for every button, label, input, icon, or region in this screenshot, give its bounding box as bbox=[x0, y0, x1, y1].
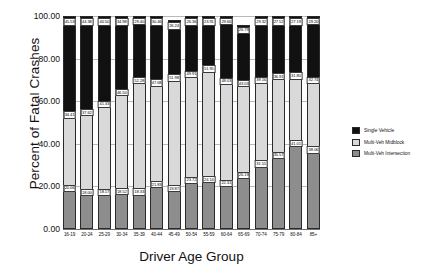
bar-column[interactable]: 34.9846.5018.52 bbox=[115, 16, 128, 229]
bar-column[interactable]: 29.2032.7438.06 bbox=[307, 16, 320, 229]
bar-segment[interactable]: 41.01 bbox=[289, 142, 302, 229]
legend-item[interactable]: Multi-Veh Intersection bbox=[352, 149, 410, 158]
x-axis-tick-label: 80-84 bbox=[289, 232, 302, 237]
bar-segment[interactable]: 23.91 bbox=[202, 16, 215, 67]
bar-segment[interactable]: 37.62 bbox=[80, 111, 93, 191]
bar-value-label: 49.91 bbox=[185, 71, 198, 78]
y-axis-tick-label: 80.00 bbox=[38, 54, 60, 64]
bar-segment[interactable]: 26.19 bbox=[237, 173, 250, 229]
bar-value-label: 39.16 bbox=[255, 77, 268, 84]
x-axis-tick-labels: 16-1920-2425-2930-3435-3940-4445-4950-54… bbox=[63, 232, 320, 237]
legend-item-label: Multi-Veh Midblock bbox=[364, 140, 404, 145]
bar-column[interactable]: 26.7943.0326.19 bbox=[237, 16, 250, 229]
bar-segment[interactable]: 20.06 bbox=[63, 186, 76, 229]
x-axis-tick-label: 35-39 bbox=[133, 232, 146, 237]
bar-segment[interactable]: 19.87 bbox=[168, 187, 181, 229]
bar-column[interactable]: 27.1931.8041.01 bbox=[289, 16, 302, 229]
bar-value-label: 31.80 bbox=[290, 72, 303, 79]
bar-segment[interactable]: 27.52 bbox=[272, 16, 285, 75]
bar-segment[interactable]: 31.80 bbox=[289, 74, 302, 142]
bar-value-label: 23.72 bbox=[185, 177, 198, 184]
bar-segment[interactable]: 29.40 bbox=[133, 16, 146, 79]
bar-segment[interactable]: 47.68 bbox=[150, 81, 163, 183]
bar-column[interactable]: 29.3239.1631.51 bbox=[255, 16, 268, 229]
x-axis-tick-label: 20-24 bbox=[80, 232, 93, 237]
bar-column[interactable]: 29.4052.2818.33 bbox=[133, 16, 146, 229]
bar-segment[interactable]: 34.41 bbox=[63, 113, 76, 186]
bar-segment[interactable]: 18.00 bbox=[80, 191, 93, 229]
legend-item[interactable]: Single Vehicle bbox=[352, 126, 410, 135]
bar-value-label: 48.03 bbox=[220, 78, 233, 85]
bar-segment[interactable]: 51.98 bbox=[168, 76, 181, 187]
bar-segment[interactable]: 27.19 bbox=[289, 16, 302, 74]
bar-segment[interactable]: 39.16 bbox=[255, 78, 268, 161]
x-axis-tick-label: 16-19 bbox=[63, 232, 76, 237]
bar-value-label: 52.28 bbox=[133, 77, 146, 84]
bar-segment[interactable]: 31.51 bbox=[255, 162, 268, 229]
bar-segment[interactable]: 32.74 bbox=[307, 78, 320, 148]
bar-segment[interactable]: 30.46 bbox=[150, 16, 163, 81]
bar-value-label: 29.40 bbox=[133, 18, 146, 25]
bar-value-label: 26.24 bbox=[168, 22, 181, 29]
bar-value-label: 23.91 bbox=[203, 18, 216, 25]
bar-column[interactable]: 26.3649.9123.72 bbox=[185, 16, 198, 229]
bar-segment[interactable]: 23.72 bbox=[185, 178, 198, 229]
bar-value-label: 47.68 bbox=[150, 79, 163, 86]
bar-segment[interactable]: 34.98 bbox=[115, 16, 128, 91]
bar-segment[interactable]: 29.66 bbox=[220, 16, 233, 79]
bar-segment[interactable]: 18.17 bbox=[98, 190, 111, 229]
x-axis-tick-label: 65-69 bbox=[237, 232, 250, 237]
bar-segment[interactable]: 52.28 bbox=[133, 79, 146, 190]
bar-segment[interactable]: 49.91 bbox=[185, 72, 198, 178]
x-axis-tick-label: 75-79 bbox=[272, 232, 285, 237]
gridline bbox=[63, 229, 320, 230]
y-axis-tick-label: 20.00 bbox=[38, 181, 60, 191]
bar-value-label: 51.98 bbox=[168, 74, 181, 81]
bar-segment[interactable]: 41.33 bbox=[98, 102, 111, 190]
bar-column[interactable]: 45.5334.4120.06 bbox=[63, 16, 76, 229]
bar-segment[interactable]: 26.24 bbox=[168, 20, 181, 76]
bar-value-label: 51.95 bbox=[203, 65, 216, 72]
bar-value-label: 31.51 bbox=[255, 160, 268, 167]
bar-segment[interactable]: 24.14 bbox=[202, 178, 215, 229]
bar-value-label: 35.57 bbox=[272, 152, 285, 159]
bar-segment[interactable]: 29.20 bbox=[307, 16, 320, 78]
bar-value-label: 40.50 bbox=[98, 18, 111, 25]
bar-segment[interactable]: 45.53 bbox=[63, 16, 76, 113]
bar-segment[interactable]: 38.06 bbox=[307, 148, 320, 229]
bar-segment[interactable]: 18.52 bbox=[115, 190, 128, 229]
bar-value-label: 18.17 bbox=[98, 189, 111, 196]
bar-segment[interactable]: 22.31 bbox=[220, 181, 233, 229]
bar-segment[interactable]: 18.33 bbox=[133, 190, 146, 229]
bar-segment[interactable]: 21.83 bbox=[150, 183, 163, 229]
bar-segment[interactable]: 40.50 bbox=[98, 16, 111, 102]
x-axis-tick-label: 70-74 bbox=[255, 232, 268, 237]
bar-segment[interactable]: 26.79 bbox=[237, 25, 250, 82]
bar-segment[interactable]: 46.50 bbox=[115, 91, 128, 190]
bar-column[interactable]: 30.4647.6821.83 bbox=[150, 16, 163, 229]
legend-swatch bbox=[352, 150, 360, 157]
bar-column[interactable]: 27.5236.9135.57 bbox=[272, 16, 285, 229]
bar-segment[interactable]: 26.36 bbox=[185, 16, 198, 72]
bar-segment[interactable]: 43.03 bbox=[237, 82, 250, 174]
bar-value-label: 27.52 bbox=[272, 18, 285, 25]
bar-segment[interactable]: 51.95 bbox=[202, 67, 215, 178]
y-axis-tick-label: 100.00 bbox=[34, 11, 60, 21]
bar-column[interactable]: 44.3837.6218.00 bbox=[80, 16, 93, 229]
bar-segment[interactable]: 44.38 bbox=[80, 16, 93, 111]
bar-column[interactable]: 29.6648.0322.31 bbox=[220, 16, 233, 229]
x-axis-tick-label: 30-34 bbox=[115, 232, 128, 237]
y-axis-tick-labels: 0.0020.0040.0060.0080.00100.00 bbox=[18, 16, 60, 229]
bar-segment[interactable]: 48.03 bbox=[220, 79, 233, 181]
bar-column[interactable]: 40.5041.3318.17 bbox=[98, 16, 111, 229]
bar-segment[interactable]: 35.57 bbox=[272, 153, 285, 229]
x-axis-tick-label: 25-29 bbox=[98, 232, 111, 237]
bar-value-label: 29.20 bbox=[307, 18, 320, 25]
bar-column[interactable]: 26.2451.9819.87 bbox=[168, 16, 181, 229]
bar-segment[interactable]: 36.91 bbox=[272, 75, 285, 154]
legend-item[interactable]: Multi-Veh Midblock bbox=[352, 138, 410, 147]
bar-value-label: 36.91 bbox=[272, 73, 285, 80]
y-axis-tick-label: 0.00 bbox=[43, 224, 60, 234]
bar-column[interactable]: 23.9151.9524.14 bbox=[202, 16, 215, 229]
bar-segment[interactable]: 29.32 bbox=[255, 16, 268, 78]
